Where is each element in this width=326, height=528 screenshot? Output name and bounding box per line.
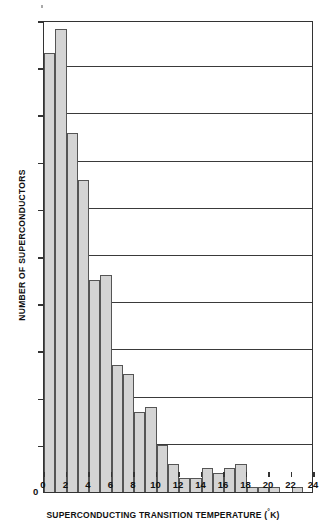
- x-tick-label: 2: [54, 479, 78, 490]
- scan-speck: [41, 5, 43, 8]
- x-tick-mark: [133, 472, 135, 477]
- histogram-bar: [78, 180, 89, 492]
- plot-area: [43, 21, 313, 493]
- origin-label: 0: [33, 486, 38, 497]
- x-axis-title-text: SUPERCONDUCTING TRANSITION TEMPERATURE (: [46, 510, 267, 520]
- x-tick-mark: [223, 472, 225, 477]
- x-tick-mark: [246, 472, 248, 477]
- x-tick-label: 10: [144, 479, 168, 490]
- histogram-bar: [100, 275, 111, 492]
- histogram-bar: [67, 133, 78, 492]
- x-tick-label: 6: [99, 479, 123, 490]
- x-tick-mark: [313, 472, 315, 477]
- x-tick-label: 24: [301, 479, 325, 490]
- histogram-chart: NUMBER OF SUPERCONDUCTORS 01020304050607…: [0, 0, 326, 528]
- x-axis-title-tail: K): [270, 510, 279, 520]
- histogram-bar: [112, 365, 123, 492]
- x-axis-title: SUPERCONDUCTING TRANSITION TEMPERATURE (…: [0, 508, 326, 520]
- x-tick-label: 14: [189, 479, 213, 490]
- x-tick-mark: [291, 472, 293, 477]
- y-axis-title: NUMBER OF SUPERCONDUCTORS: [17, 145, 27, 345]
- x-tick-label: 16: [211, 479, 235, 490]
- x-tick-mark: [201, 472, 203, 477]
- x-tick-mark: [268, 472, 270, 477]
- x-tick-label: 8: [121, 479, 145, 490]
- x-tick-mark: [178, 472, 180, 477]
- x-tick-mark: [66, 472, 68, 477]
- x-tick-mark: [88, 472, 90, 477]
- x-tick-label: 18: [234, 479, 258, 490]
- x-tick-mark: [156, 472, 158, 477]
- x-tick-label: 20: [256, 479, 280, 490]
- histogram-bar: [55, 29, 66, 492]
- x-tick-mark: [111, 472, 113, 477]
- x-tick-mark: [43, 472, 45, 477]
- histogram-bar: [44, 53, 55, 492]
- x-tick-label: 22: [279, 479, 303, 490]
- histogram-bar: [89, 280, 100, 492]
- x-tick-label: 12: [166, 479, 190, 490]
- x-tick-label: 4: [76, 479, 100, 490]
- bar-series: [44, 22, 312, 492]
